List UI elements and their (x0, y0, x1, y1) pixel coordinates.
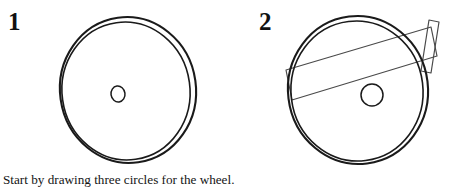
tutorial-page: 1 Start by drawing three circles for the… (0, 0, 451, 190)
inner-rim-circle (53, 14, 199, 168)
outer-rim-circle (51, 8, 206, 170)
wheel-with-cannon-figure (226, 0, 451, 170)
step-1-caption: Start by drawing three circles for the w… (3, 172, 234, 188)
hub-circle (361, 84, 383, 106)
tutorial-step-2: 2 Add two rectangles for the cannon. (226, 0, 451, 170)
hub-circle (110, 85, 126, 103)
wheel-outline-figure (0, 0, 226, 170)
tutorial-step-1: 1 Start by drawing three circles for the… (0, 0, 226, 170)
